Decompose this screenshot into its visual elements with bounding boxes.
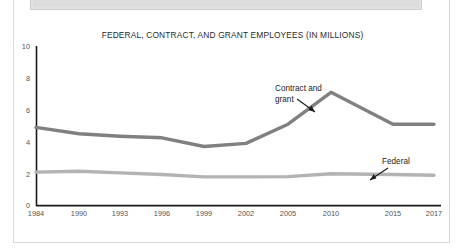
x-tick-label-2010: 2010	[311, 210, 351, 217]
x-tick-label-2005: 2005	[268, 210, 308, 217]
x-tick-label-1984: 1984	[16, 210, 56, 217]
y-tick-label-4: 4	[12, 139, 30, 146]
x-tick-label-1993: 1993	[100, 210, 140, 217]
series-line-contract-and-grant	[36, 92, 434, 146]
x-tick-label-2002: 2002	[226, 210, 266, 217]
annotation-contract-line2: grant	[275, 95, 322, 106]
x-tick-label-1996: 1996	[142, 210, 182, 217]
y-tick-label-6: 6	[12, 107, 30, 114]
y-tick-label-2: 2	[12, 171, 30, 178]
y-tick-label-10: 10	[12, 43, 30, 50]
y-tick-label-8: 8	[12, 75, 30, 82]
annotation-federal-line1: Federal	[382, 157, 410, 168]
chart-page: FEDERAL, CONTRACT, AND GRANT EMPLOYEES (…	[0, 0, 465, 251]
x-tick-label-2017: 2017	[414, 210, 454, 217]
annotation-contract-and-grant: Contract and grant	[275, 84, 322, 105]
x-tick-label-1999: 1999	[184, 210, 224, 217]
annotation-contract-line1: Contract and	[275, 84, 322, 95]
x-tick-label-1990: 1990	[59, 210, 99, 217]
x-tick-label-2015: 2015	[373, 210, 413, 217]
annotation-federal: Federal	[382, 157, 410, 168]
